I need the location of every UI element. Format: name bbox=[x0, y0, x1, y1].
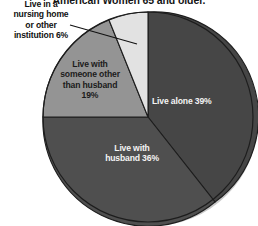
slice-label-live-with-someone-other-line1: Live with bbox=[44, 59, 136, 69]
slice-label-live-with-someone-other-line2: someone other bbox=[44, 69, 136, 79]
slice-label-nursing-home: Live in a nursing home or other institut… bbox=[0, 0, 82, 41]
slice-label-live-with-husband-line2: husband 36% bbox=[86, 153, 178, 163]
slice-label-nursing-home-line1: Live in a bbox=[0, 0, 82, 9]
slice-label-nursing-home-line3: or other bbox=[0, 20, 82, 30]
slice-label-live-with-someone-other: Live with someone other than husband 19% bbox=[44, 59, 136, 101]
slice-label-live-alone: Live alone 39% bbox=[152, 96, 212, 106]
slice-label-nursing-home-line4: institution 6% bbox=[0, 30, 82, 40]
pie-chart-figure: American Women 65 and older. Live alone … bbox=[0, 0, 258, 226]
slice-label-nursing-home-line2: nursing home bbox=[0, 9, 82, 19]
slice-label-live-with-someone-other-line4: 19% bbox=[44, 90, 136, 100]
slice-label-live-with-someone-other-line3: than husband bbox=[44, 80, 136, 90]
slice-label-live-with-husband: Live with husband 36% bbox=[86, 143, 178, 164]
slice-label-live-alone-text: Live alone 39% bbox=[152, 96, 212, 106]
slice-label-live-with-husband-line1: Live with bbox=[86, 143, 178, 153]
